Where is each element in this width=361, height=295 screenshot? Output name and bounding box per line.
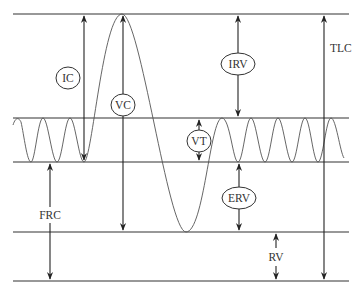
irv-label: IRV [229, 58, 249, 70]
erv-label: ERV [228, 192, 251, 204]
spirometry-trace [13, 14, 344, 232]
vt-label: VT [191, 135, 206, 147]
rv-label: RV [268, 251, 284, 263]
frc-label: FRC [39, 209, 61, 221]
tlc-label: TLC [330, 42, 352, 54]
ic-label: IC [62, 72, 74, 84]
lung-volume-diagram: IC VC IRV VT ERV FRC TLC RV [0, 0, 361, 295]
vc-label: VC [115, 99, 131, 111]
